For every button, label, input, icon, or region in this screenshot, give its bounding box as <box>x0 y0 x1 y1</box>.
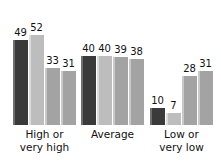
bar-group: 1072831 <box>150 0 213 125</box>
bar <box>166 113 181 125</box>
bar-item: 31 <box>198 1 213 125</box>
bar-item: 38 <box>129 1 144 125</box>
bar-chart: 49523331404039381072831 High or very hig… <box>0 0 221 161</box>
bar-group: 40403938 <box>81 0 144 125</box>
bar <box>81 56 96 125</box>
bar-item: 40 <box>81 1 96 125</box>
bar-item: 31 <box>61 1 76 125</box>
bar-value-label: 38 <box>125 47 148 57</box>
bar-item: 7 <box>166 1 181 125</box>
bar-group: 49523331 <box>13 0 76 125</box>
bar <box>182 76 197 125</box>
bar-item: 40 <box>97 1 112 125</box>
bar-value-label: 31 <box>57 59 80 69</box>
bar <box>198 71 213 125</box>
bar <box>113 57 128 125</box>
bar-item: 39 <box>113 1 128 125</box>
bar-value-label: 31 <box>194 59 217 69</box>
bar <box>29 35 44 125</box>
bar-item: 49 <box>13 1 28 125</box>
bar <box>45 68 60 125</box>
category-axis: High or very highAverageLow or very low <box>0 128 221 161</box>
bar <box>129 59 144 125</box>
plot-area: 49523331404039381072831 <box>0 0 221 125</box>
category-label: Low or very low <box>132 128 221 154</box>
bar <box>61 71 76 125</box>
bar <box>13 40 28 125</box>
bar <box>97 56 112 125</box>
